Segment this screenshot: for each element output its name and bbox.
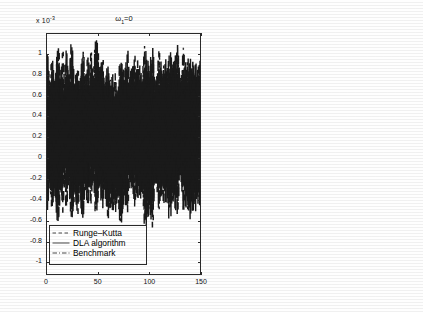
y-tick-label: 0 <box>18 153 42 160</box>
y-tick-mark <box>198 137 201 138</box>
exponent-prefix: x 10 <box>36 17 50 24</box>
y-tick-mark <box>198 96 201 97</box>
x-tick-mark <box>149 272 150 275</box>
figure-root: x 10-3 ω1=0 10.80.60.40.20-0.2-0.4-0.6-0… <box>0 0 423 312</box>
x-tick-label: 0 <box>32 278 60 285</box>
legend-label-runge-kutta: Runge–Kutta <box>73 228 122 238</box>
x-tick-mark <box>46 272 47 275</box>
y-tick-mark <box>198 200 201 201</box>
legend-solid-line-icon <box>52 239 70 247</box>
legend-item-runge-kutta: Runge–Kutta <box>52 228 143 238</box>
y-tick-mark <box>46 54 49 55</box>
y-tick-label: -0.2 <box>18 174 42 181</box>
y-tick-mark <box>46 116 49 117</box>
y-tick-mark <box>198 158 201 159</box>
legend-item-benchmark: Benchmark <box>52 248 143 258</box>
y-axis-scale-exponent-left: x 10-3 <box>36 15 55 24</box>
y-tick-mark <box>198 75 201 76</box>
legend-dashdot-line-icon <box>52 249 70 257</box>
legend-label-dla-algorithm: DLA algorithm <box>73 238 126 248</box>
legend-item-dla-algorithm: DLA algorithm <box>52 238 143 248</box>
y-tick-mark <box>198 54 201 55</box>
plot-panel-left: x 10-3 ω1=0 10.80.60.40.20-0.2-0.4-0.6-0… <box>0 0 211 312</box>
y-tick-label: -1 <box>18 257 42 264</box>
y-tick-mark <box>46 96 49 97</box>
y-tick-label: 0.8 <box>18 70 42 77</box>
title-equation: =0 <box>124 14 133 23</box>
y-tick-mark <box>46 200 49 201</box>
y-tick-mark <box>46 221 49 222</box>
x-tick-label: 50 <box>84 278 112 285</box>
y-tick-mark <box>198 242 201 243</box>
y-tick-label: -0.6 <box>18 216 42 223</box>
exponent-power: -3 <box>50 15 55 21</box>
x-tick-label: 100 <box>135 278 163 285</box>
y-tick-label: 0.6 <box>18 91 42 98</box>
legend-dashed-line-icon <box>52 229 70 237</box>
y-tick-mark <box>46 179 49 180</box>
y-tick-mark <box>46 75 49 76</box>
legend-left: Runge–Kutta DLA algorithm Benchmark <box>49 225 147 265</box>
y-tick-label: 0.2 <box>18 132 42 139</box>
plot-panel-right: x 10-3 ω2=0 10.80.60.40.20-0.2-0.4-0.6-0… <box>212 0 423 312</box>
y-tick-label: -0.8 <box>18 237 42 244</box>
y-tick-label: -0.4 <box>18 195 42 202</box>
legend-label-benchmark: Benchmark <box>73 248 115 258</box>
y-tick-label: 1 <box>18 49 42 56</box>
y-tick-mark <box>198 116 201 117</box>
x-tick-mark <box>98 272 99 275</box>
x-tick-mark <box>201 272 202 275</box>
x-tick-mark <box>46 33 47 36</box>
x-tick-mark <box>149 33 150 36</box>
y-tick-mark <box>198 221 201 222</box>
x-tick-mark <box>201 33 202 36</box>
y-tick-mark <box>46 158 49 159</box>
y-tick-label: 0.4 <box>18 111 42 118</box>
x-tick-mark <box>98 33 99 36</box>
y-tick-mark <box>198 179 201 180</box>
y-tick-mark <box>46 137 49 138</box>
y-tick-mark <box>198 262 201 263</box>
panel-title-left: ω1=0 <box>84 14 164 25</box>
x-tick-label: 150 <box>187 278 215 285</box>
